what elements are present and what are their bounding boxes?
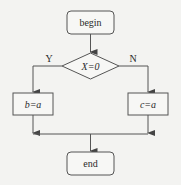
no-label: N (129, 54, 136, 64)
edge-yes-branch (33, 66, 62, 92)
yes-label: Y (45, 54, 52, 64)
assign-c-label: c=a (140, 100, 156, 110)
decision-label: X=0 (82, 62, 100, 72)
flowchart: begin X=0 Y N b=a c=a end (0, 0, 181, 185)
edge-no-branch (119, 66, 148, 92)
end-label: end (83, 159, 97, 169)
begin-label: begin (79, 18, 101, 28)
assign-b-label: b=a (25, 100, 42, 110)
